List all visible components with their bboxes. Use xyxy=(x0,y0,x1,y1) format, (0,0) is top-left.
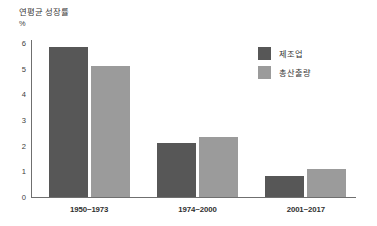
bar-total-output xyxy=(91,66,130,197)
y-axis-tick-label: 2 xyxy=(22,141,26,150)
x-axis-category-label: 2001~2017 xyxy=(287,205,325,214)
bar-manufacturing xyxy=(49,47,88,197)
x-axis-category-label: 1950~1973 xyxy=(70,205,108,214)
x-axis-category-label: 1974~2000 xyxy=(178,205,216,214)
y-axis-tick-label: 0 xyxy=(22,193,26,202)
bar-manufacturing xyxy=(157,143,196,197)
y-axis-tick-label: 4 xyxy=(22,90,26,99)
y-axis-tick-label: 6 xyxy=(22,39,26,48)
y-axis-tick-label: 3 xyxy=(22,116,26,125)
page-title: 연평균 성장률 xyxy=(19,8,69,17)
y-axis-line xyxy=(31,40,32,198)
x-axis-line xyxy=(31,197,356,198)
bar-total-output xyxy=(307,169,346,197)
bar-total-output xyxy=(199,137,238,197)
bar-manufacturing xyxy=(265,176,304,197)
bar-chart-figure: 연평균 성장률 % 제조업 총산출량 0123456 1950~19731974… xyxy=(0,0,377,226)
y-axis-tick-label: 1 xyxy=(22,167,26,176)
y-axis-unit-label: % xyxy=(19,20,69,28)
plot-area: 0123456 1950~19731974~20002001~2017 xyxy=(31,42,356,198)
chart-title-block: 연평균 성장률 % xyxy=(19,8,69,28)
y-axis-tick-label: 5 xyxy=(22,64,26,73)
